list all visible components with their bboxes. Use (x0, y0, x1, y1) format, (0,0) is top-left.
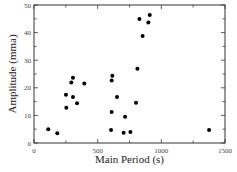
data-point (122, 131, 126, 135)
data-point (82, 81, 86, 85)
y-tick-label: 10 (24, 112, 32, 120)
axis-ticks (34, 5, 225, 143)
data-point (128, 130, 132, 134)
data-point (207, 128, 211, 132)
x-tick-label: 1500 (218, 147, 233, 155)
x-tick-label: 0 (32, 147, 36, 155)
data-point (75, 101, 79, 105)
y-axis-title: Amplitude (mma) (6, 34, 19, 113)
data-point (115, 95, 119, 99)
y-tick-label: 20 (24, 84, 32, 92)
x-axis-title: Main Period (s) (95, 153, 164, 166)
data-point (134, 101, 138, 105)
y-tick-label: 30 (24, 57, 32, 65)
data-point (109, 128, 113, 132)
data-point (55, 131, 59, 135)
data-point (64, 93, 68, 97)
data-point (135, 67, 139, 71)
data-point (146, 20, 150, 24)
scatter-chart: 050010001500 01020304050 Main Period (s)… (0, 0, 237, 172)
data-point (141, 34, 145, 38)
y-tick-label: 50 (24, 2, 32, 10)
y-tick-label: 40 (24, 29, 32, 37)
data-point (137, 17, 141, 21)
data-point (71, 95, 75, 99)
y-tick-label: 0 (28, 140, 32, 148)
data-point (123, 115, 127, 119)
data-point (69, 81, 73, 85)
y-tick-labels: 01020304050 (24, 2, 32, 148)
data-point (64, 106, 68, 110)
plot-frame (34, 5, 225, 143)
data-point (110, 74, 114, 78)
data-point (148, 13, 152, 17)
data-point (110, 79, 114, 83)
data-point (110, 110, 114, 114)
data-point (71, 76, 75, 80)
data-points (46, 13, 211, 135)
data-point (46, 127, 50, 131)
